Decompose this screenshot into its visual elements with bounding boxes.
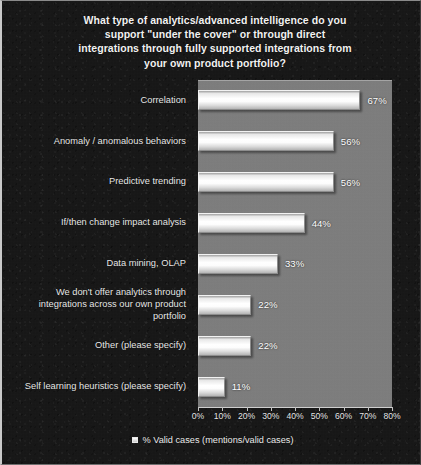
bar-value-label: 22% [258, 340, 277, 351]
bar-row: 33% [198, 254, 421, 274]
bar-value-label: 22% [258, 299, 277, 310]
bar [198, 295, 251, 315]
bar-row: 56% [198, 131, 421, 151]
bar-row: 67% [198, 90, 421, 110]
category-label: Self learning heuristics (please specify… [25, 381, 192, 393]
bar-value-label: 56% [341, 136, 360, 147]
category-label: Other (please specify) [95, 340, 192, 352]
bar-row: 22% [198, 336, 421, 356]
bar-row: 56% [198, 172, 421, 192]
bar [198, 90, 360, 110]
bar-value-label: 67% [367, 95, 386, 106]
category-label: Correlation [141, 95, 192, 107]
chart-title-line-1: What type of analytics/advanced intellig… [30, 13, 400, 27]
bar-row: 44% [198, 213, 421, 233]
category-label: Predictive trending [109, 176, 192, 188]
chart-title: What type of analytics/advanced intellig… [30, 13, 400, 70]
bar [198, 172, 334, 192]
category-label: Data mining, OLAP [106, 258, 192, 270]
category-label: Anomaly / anomalous behaviors [54, 136, 192, 148]
bar-value-label: 11% [232, 381, 251, 392]
legend-label: % Valid cases (mentions/valid cases) [143, 435, 294, 445]
bar-row: 11% [198, 377, 421, 397]
bar [198, 213, 305, 233]
bar-value-label: 56% [341, 177, 360, 188]
bar-value-label: 33% [285, 258, 304, 269]
category-label: We don't offer analytics throughintegrat… [39, 287, 192, 322]
chart-legend: % Valid cases (mentions/valid cases) [2, 435, 421, 445]
x-axis-tick-label: 80% [377, 411, 407, 421]
legend-swatch-icon [132, 437, 138, 443]
chart-title-line-4: your own product portfolio? [30, 56, 400, 70]
category-label: If/then change impact analysis [61, 217, 192, 229]
bar [198, 336, 251, 356]
bar-row: 22% [198, 295, 421, 315]
bar [198, 254, 278, 274]
bar [198, 131, 334, 151]
bar-value-label: 44% [312, 218, 331, 229]
chart-title-line-3: integrations through fully supported int… [30, 41, 400, 55]
chart-container: What type of analytics/advanced intellig… [0, 0, 421, 465]
plot-area [198, 80, 392, 407]
chart-title-line-2: support "under the cover" or through dir… [30, 27, 400, 41]
bar [198, 377, 225, 397]
category-label-row: Self learning heuristics (please specify… [2, 363, 192, 411]
